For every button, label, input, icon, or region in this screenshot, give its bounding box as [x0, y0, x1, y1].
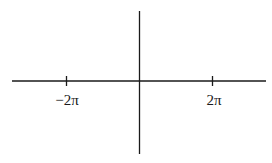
tick-label-pos-2pi: 2π	[206, 93, 221, 108]
coordinate-axes-figure: −2π 2π	[0, 0, 272, 163]
axes-drawing	[0, 0, 272, 163]
tick-label-neg-2pi: −2π	[55, 93, 79, 108]
